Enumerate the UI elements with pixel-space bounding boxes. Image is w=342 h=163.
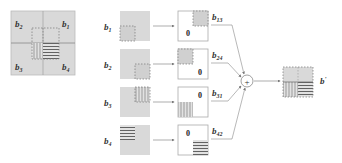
svg-text:0: 0: [186, 129, 190, 138]
svg-text:b4: b4: [104, 136, 112, 147]
svg-text:b2: b2: [104, 60, 112, 71]
svg-text:b31: b31: [212, 88, 223, 99]
svg-text:b1: b1: [104, 22, 112, 33]
result-label: b': [320, 75, 327, 86]
svg-text:b42: b42: [212, 126, 223, 137]
svg-text:b13: b13: [212, 12, 223, 23]
result-block: b': [283, 67, 327, 97]
block-decomposition-diagram: b2 b1 b3 b4 b1 0 b13 b2 0 b24 b3 0 b3: [0, 0, 342, 163]
plus-icon: +: [244, 77, 249, 87]
source-block: b2 b1 b3 b4: [11, 11, 75, 75]
svg-text:0: 0: [198, 91, 202, 100]
row-b3: b3 0 b31: [104, 86, 241, 117]
svg-text:b24: b24: [212, 50, 223, 61]
svg-text:0: 0: [186, 29, 190, 38]
sum-operator: +: [241, 75, 280, 87]
row-b2: b2 0 b24: [104, 49, 241, 79]
svg-text:0: 0: [198, 68, 202, 77]
svg-text:b3: b3: [104, 98, 112, 109]
